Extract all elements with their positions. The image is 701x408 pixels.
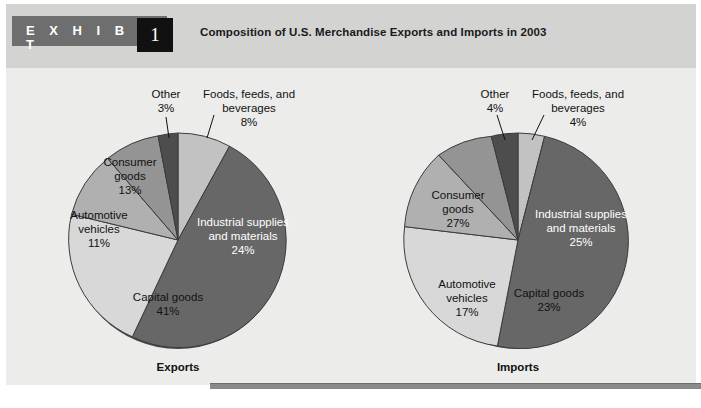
exhibit-figure: E X H I B I T 1 Composition of U.S. Merc… [0, 0, 701, 408]
exports-label-automotive-line1: Automotive [70, 209, 128, 221]
imports-label-other-line1: Other [481, 88, 510, 100]
exports-leader-foods [207, 115, 214, 138]
imports-label-automotive-line1: Automotive [438, 278, 496, 290]
imports-label-consumer-line2: goods [442, 203, 474, 215]
exports-label-foods-line3: 8% [241, 116, 258, 128]
exports-label-consumer-line2: goods [114, 170, 146, 182]
exports-label-industrial-line2: and materials [208, 230, 277, 242]
imports-label-automotive-line3: 17% [455, 306, 478, 318]
exports-label-automotive-line2: vehicles [78, 223, 120, 235]
imports-label-foods-line3: 4% [570, 116, 587, 128]
imports-label-foods-line1: Foods, feeds, and [532, 88, 624, 100]
imports-label-consumer-line1: Consumer [431, 189, 484, 201]
exports-caption: Exports [157, 361, 200, 373]
exports-label-industrial-line3: 24% [231, 244, 254, 256]
pie-charts-svg: Other 3% Foods, feeds, and beverages 8% … [0, 0, 701, 408]
exports-label-consumer-line3: 13% [118, 184, 141, 196]
exports-label-automotive-line3: 11% [88, 237, 110, 249]
charts-container: Other 3% Foods, feeds, and beverages 8% … [0, 0, 701, 408]
imports-label-foods-line2: beverages [551, 102, 605, 114]
exports-label-capital-line2: 41% [156, 305, 179, 317]
imports-label-capital-line2: 23% [537, 301, 560, 313]
imports-label-industrial-line2: and materials [546, 222, 615, 234]
imports-label-industrial-line3: 25% [569, 236, 592, 248]
exports-label-other-line1: Other [152, 88, 181, 100]
imports-label-industrial-line1: Industrial supplies [535, 208, 627, 220]
exports-pie-chart: Other 3% Foods, feeds, and beverages 8% … [69, 88, 295, 373]
imports-label-automotive-line2: vehicles [446, 292, 488, 304]
exports-label-consumer-line1: Consumer [103, 156, 156, 168]
exports-label-capital-line1: Capital goods [133, 291, 204, 303]
imports-label-consumer-line3: 27% [446, 217, 469, 229]
imports-pie-chart: Other 4% Foods, feeds, and beverages 4% … [404, 88, 629, 373]
exports-label-foods-line2: beverages [222, 102, 276, 114]
exports-label-foods-line1: Foods, feeds, and [203, 88, 295, 100]
imports-label-other-line2: 4% [487, 102, 504, 114]
imports-label-capital-line1: Capital goods [514, 287, 585, 299]
exports-label-industrial-line1: Industrial supplies [197, 216, 289, 228]
imports-caption: Imports [497, 361, 539, 373]
exports-label-other-line2: 3% [158, 102, 175, 114]
